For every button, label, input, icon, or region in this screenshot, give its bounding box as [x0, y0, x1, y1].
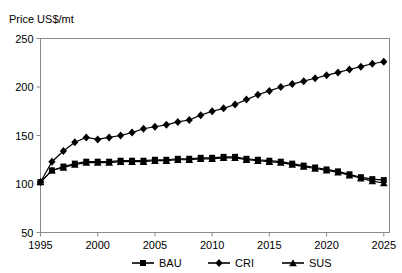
x-tick-label: 2025 [372, 239, 396, 251]
plot-area: 5010015020025019952000200520102015202020… [0, 0, 402, 273]
diamond-marker [209, 107, 216, 115]
square-marker [118, 158, 124, 164]
square-marker [186, 156, 192, 162]
diamond-marker [312, 74, 319, 82]
square-marker [312, 165, 318, 171]
series-line [41, 62, 384, 182]
square-marker [289, 161, 295, 167]
series-cri [37, 58, 387, 186]
square-marker [95, 159, 101, 165]
diamond-marker [117, 132, 124, 140]
diamond-marker [243, 96, 250, 104]
diamond-marker [254, 91, 261, 99]
diamond-marker [186, 116, 193, 124]
plot-frame [41, 39, 390, 233]
y-tick-label: 100 [15, 178, 33, 190]
square-marker [381, 177, 387, 183]
square-marker [221, 154, 227, 160]
square-marker [60, 164, 66, 170]
diamond-marker [266, 87, 273, 95]
diamond-marker [163, 121, 170, 129]
square-marker [163, 157, 169, 163]
diamond-marker [289, 80, 296, 88]
square-marker [140, 158, 146, 164]
diamond-marker [197, 111, 204, 119]
square-marker [369, 176, 375, 182]
diamond-marker [140, 125, 147, 133]
x-tick-label: 2005 [143, 239, 167, 251]
square-marker [232, 154, 238, 160]
diamond-marker [128, 129, 135, 137]
square-marker [83, 159, 89, 165]
square-marker [152, 157, 158, 163]
x-tick-label: 2015 [257, 239, 281, 251]
chart-legend: BAUCRISUS [132, 257, 332, 269]
square-marker [198, 155, 204, 161]
diamond-marker [231, 100, 238, 108]
square-marker [358, 174, 364, 180]
x-tick-label: 2010 [200, 239, 224, 251]
y-tick-label: 200 [15, 81, 33, 93]
legend-label-sus: SUS [309, 257, 332, 269]
diamond-marker [94, 135, 101, 143]
diamond-marker [71, 138, 78, 146]
square-marker [72, 161, 78, 167]
legend-label-cri: CRI [235, 257, 254, 269]
diamond-marker [83, 133, 90, 141]
diamond-marker [346, 66, 353, 74]
square-marker [38, 179, 44, 185]
series-bau [38, 154, 387, 185]
legend-label-bau: BAU [159, 257, 182, 269]
x-tick-label: 1995 [28, 239, 52, 251]
price-projection-chart: Price US$/mt 501001502002501995200020052… [0, 0, 402, 273]
square-marker [266, 158, 272, 164]
diamond-marker [215, 259, 222, 267]
square-marker [346, 171, 352, 177]
diamond-marker [357, 63, 364, 71]
square-marker [301, 163, 307, 169]
square-marker [140, 260, 146, 266]
diamond-marker [220, 104, 227, 112]
diamond-marker [369, 60, 376, 68]
diamond-marker [277, 83, 284, 91]
square-marker [175, 156, 181, 162]
square-marker [278, 159, 284, 165]
square-marker [106, 159, 112, 165]
diamond-marker [106, 133, 113, 141]
square-marker [335, 168, 341, 174]
diamond-marker [300, 77, 307, 85]
x-tick-label: 2000 [85, 239, 109, 251]
square-marker [255, 157, 261, 163]
diamond-marker [380, 58, 387, 66]
diamond-marker [323, 71, 330, 79]
y-tick-label: 50 [21, 227, 33, 239]
square-marker [324, 166, 330, 172]
square-marker [209, 155, 215, 161]
square-marker [243, 156, 249, 162]
x-tick-label: 2020 [314, 239, 338, 251]
diamond-marker [151, 123, 158, 131]
y-tick-label: 250 [15, 33, 33, 45]
y-tick-label: 150 [15, 130, 33, 142]
diamond-marker [174, 118, 181, 126]
square-marker [49, 167, 55, 173]
diamond-marker [334, 68, 341, 76]
square-marker [129, 158, 135, 164]
